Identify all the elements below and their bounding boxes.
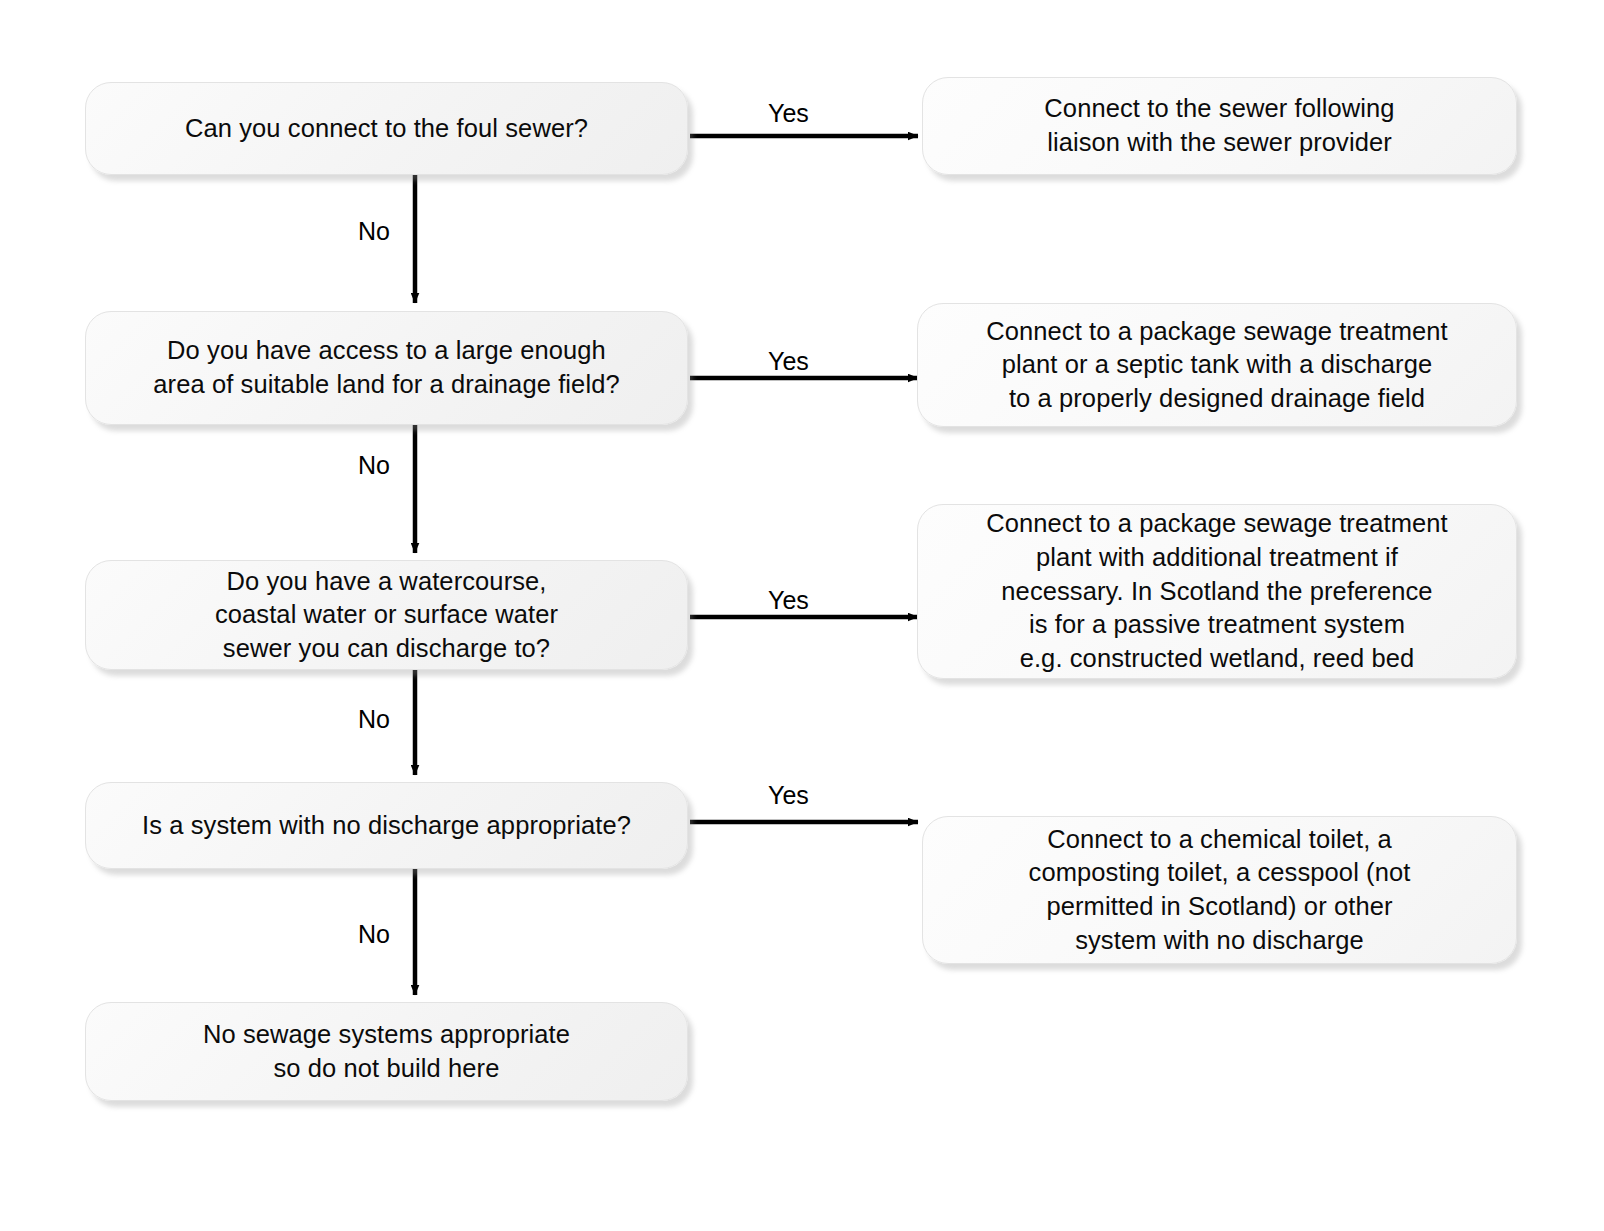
edge-label-q4-yes: Yes bbox=[768, 783, 809, 808]
edge-label-q1-yes: Yes bbox=[768, 101, 809, 126]
outcome-node-chemical-composting-toilet[interactable]: Connect to a chemical toilet, a composti… bbox=[922, 816, 1517, 964]
edge-label-q3-no: No bbox=[358, 707, 390, 732]
edge-label-q2-no: No bbox=[358, 453, 390, 478]
outcome-node-package-plant-additional-treatment[interactable]: Connect to a package sewage treatment pl… bbox=[917, 504, 1517, 679]
question-node-connect-foul-sewer[interactable]: Can you connect to the foul sewer? bbox=[85, 82, 688, 175]
outcome-node-connect-sewer-provider[interactable]: Connect to the sewer following liaison w… bbox=[922, 77, 1517, 175]
edge-label-q4-no: No bbox=[358, 922, 390, 947]
edge-label-q2-yes: Yes bbox=[768, 349, 809, 374]
question-node-no-discharge-system[interactable]: Is a system with no discharge appropriat… bbox=[85, 782, 688, 869]
flowchart-canvas: Yes Yes Yes Yes No No No No Can you conn… bbox=[0, 0, 1604, 1231]
edge-label-q3-yes: Yes bbox=[768, 588, 809, 613]
edge-label-q1-no: No bbox=[358, 219, 390, 244]
question-node-drainage-field-land[interactable]: Do you have access to a large enough are… bbox=[85, 311, 688, 425]
question-node-watercourse-discharge[interactable]: Do you have a watercourse, coastal water… bbox=[85, 560, 688, 670]
outcome-node-package-plant-septic-tank[interactable]: Connect to a package sewage treatment pl… bbox=[917, 303, 1517, 427]
terminal-node-no-systems-appropriate[interactable]: No sewage systems appropriate so do not … bbox=[85, 1002, 688, 1101]
